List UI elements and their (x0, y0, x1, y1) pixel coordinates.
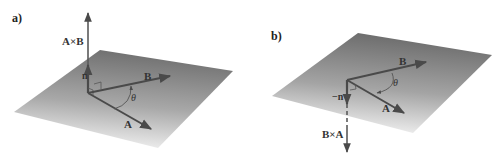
plane-a (14, 50, 233, 148)
theta-label-b: θ (393, 77, 398, 88)
plane-b (272, 33, 492, 133)
cross-product-figure: a) A×B n B A θ b) (0, 0, 502, 160)
panel-a: a) A×B n B A θ (12, 11, 233, 148)
panel-a-label: a) (12, 11, 22, 25)
panel-b: b) B A −n B×A θ (271, 29, 492, 152)
a-label-b: A (382, 102, 390, 114)
theta-label-a: θ (131, 92, 136, 103)
cross-label-a: A×B (62, 35, 84, 47)
normal-label-a: n (82, 70, 88, 81)
normal-label-b: −n (332, 91, 344, 102)
panel-b-label: b) (271, 29, 282, 43)
b-label-b: B (399, 55, 407, 67)
a-label-a: A (124, 118, 132, 130)
cross-label-b: B×A (322, 128, 344, 140)
b-label-a: B (144, 70, 152, 82)
